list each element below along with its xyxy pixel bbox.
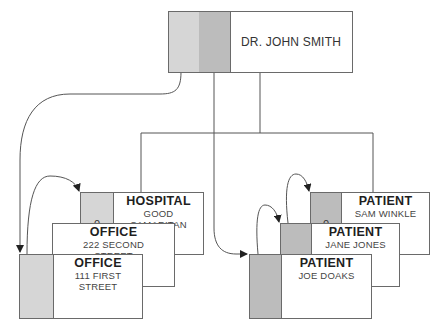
record-title: PATIENT xyxy=(342,195,429,208)
record-line1: 111 FIRST xyxy=(54,270,142,281)
patient-twin-arrow-2 xyxy=(286,174,309,223)
record-title: PATIENT xyxy=(312,226,399,239)
pointer-cell xyxy=(250,255,282,318)
patient-pointer-cell xyxy=(199,12,231,72)
record-line1: JOE DOAKS xyxy=(282,270,371,281)
record-title: OFFICE xyxy=(54,257,142,270)
record-office-111[interactable]: OFFICE 111 FIRST STREET xyxy=(19,254,143,319)
record-line1: SAM WINKLE xyxy=(342,208,429,219)
record-title: OFFICE xyxy=(53,226,174,239)
root-record[interactable]: DR. JOHN SMITH xyxy=(168,11,353,73)
record-line1: GOOD xyxy=(114,208,203,219)
record-patient-joe[interactable]: PATIENT JOE DOAKS xyxy=(249,254,372,319)
record-line1: 222 SECOND xyxy=(53,239,174,250)
patient-twin-arrow-1 xyxy=(257,205,279,254)
patient-pointer-arrow xyxy=(214,72,247,254)
record-line1: JANE JONES xyxy=(312,239,399,250)
record-title: HOSPITAL xyxy=(114,195,203,208)
pointer-cell xyxy=(20,255,54,318)
tree-line-branch xyxy=(141,133,373,192)
root-label: DR. JOHN SMITH xyxy=(230,12,352,72)
record-title: PATIENT xyxy=(282,257,371,270)
record-line2: STREET xyxy=(54,281,142,292)
office-pointer-cell xyxy=(169,12,200,72)
